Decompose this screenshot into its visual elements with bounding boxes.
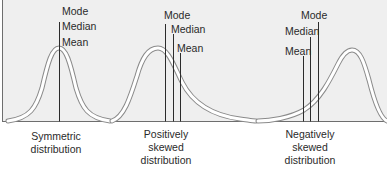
negative-caption-line-1: Negatively [285, 128, 335, 140]
positive-mode-label: Mode [164, 9, 190, 21]
negative-mean-label: Mean [285, 45, 311, 57]
symmetric-caption-line-2: distribution [31, 143, 82, 155]
positive-caption-line-2: skewed [148, 141, 184, 153]
distribution-skew-diagram: Mode Median Mean Mode Median Mean Mode M… [0, 0, 387, 171]
symmetric-mode-label: Mode [62, 5, 88, 17]
positive-caption-line-3: distribution [141, 154, 192, 166]
symmetric-caption-line-1: Symmetric [31, 130, 81, 142]
positive-median-label: Median [171, 23, 206, 35]
negative-mode-label: Mode [301, 9, 327, 21]
symmetric-median-label: Median [62, 20, 97, 32]
negative-caption-line-2: skewed [292, 141, 328, 153]
positive-caption-line-1: Positively [144, 128, 189, 140]
negative-median-label: Median [285, 25, 320, 37]
symmetric-mean-label: Mean [62, 36, 88, 48]
negative-caption-line-3: distribution [285, 154, 336, 166]
positive-mean-label: Mean [177, 42, 203, 54]
